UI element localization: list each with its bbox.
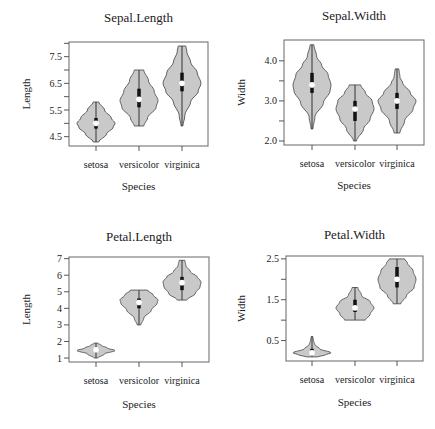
median-point-setosa [309, 350, 315, 356]
x-tick-label-setosa: setosa [300, 374, 325, 385]
chart-title-petal-width: Petal.Width [324, 227, 386, 242]
median-point-versicolor [136, 300, 142, 306]
median-point-setosa [93, 121, 99, 127]
chart-title-sepal-length: Sepal.Length [104, 10, 173, 25]
x-tick-label-setosa: setosa [84, 159, 109, 170]
y-tick-label: 5 [57, 286, 62, 297]
median-point-versicolor [352, 106, 358, 112]
x-axis-label: Species [122, 180, 156, 192]
y-tick-label: 2.5 [267, 253, 280, 264]
x-tick-label-versicolor: versicolor [335, 374, 376, 385]
median-point-versicolor [352, 305, 358, 311]
y-tick-label: 4 [57, 303, 62, 314]
x-tick-label-virginica: virginica [379, 374, 415, 385]
median-point-setosa [93, 347, 99, 353]
x-tick-label-virginica: virginica [164, 159, 200, 170]
y-tick-label: 5.5 [50, 105, 63, 116]
median-point-versicolor [136, 97, 142, 103]
y-tick-label: 7 [57, 253, 62, 264]
violin-plot-grid: Sepal.Length4.55.56.57.5Lengthsetosavers… [0, 0, 435, 429]
y-axis-label: Width [235, 78, 247, 106]
y-tick-label: 6.5 [50, 78, 63, 89]
x-tick-label-setosa: setosa [84, 375, 109, 386]
x-tick-label-versicolor: versicolor [119, 375, 160, 386]
x-axis-label: Species [338, 396, 372, 408]
x-tick-label-virginica: virginica [379, 158, 415, 169]
y-axis-label: Width [235, 294, 247, 322]
median-point-setosa [309, 82, 315, 88]
median-point-virginica [394, 276, 400, 282]
y-tick-label: 2.0 [265, 135, 278, 146]
y-tick-label: 6 [57, 270, 62, 281]
x-tick-label-setosa: setosa [300, 158, 325, 169]
y-tick-label: 3.0 [265, 95, 278, 106]
x-axis-label: Species [337, 179, 371, 191]
chart-title-petal-length: Petal.Length [106, 229, 173, 244]
median-point-virginica [179, 81, 185, 87]
x-tick-label-versicolor: versicolor [119, 159, 160, 170]
y-tick-label: 4.0 [265, 55, 278, 66]
y-axis-label: Length [20, 78, 32, 110]
median-point-virginica [179, 280, 185, 286]
median-point-virginica [394, 98, 400, 104]
y-tick-label: 1.5 [267, 294, 280, 305]
x-tick-label-versicolor: versicolor [335, 158, 376, 169]
y-tick-label: 3 [57, 319, 62, 330]
y-axis-label: Length [20, 293, 32, 325]
y-tick-label: 2 [57, 336, 62, 347]
y-tick-label: 7.5 [50, 51, 63, 62]
y-tick-label: 1 [57, 353, 62, 364]
x-axis-label: Species [122, 398, 156, 410]
chart-title-sepal-width: Sepal.Width [322, 8, 387, 23]
y-tick-label: 4.5 [50, 131, 63, 142]
y-tick-label: 0.5 [267, 335, 280, 346]
x-tick-label-virginica: virginica [164, 375, 200, 386]
